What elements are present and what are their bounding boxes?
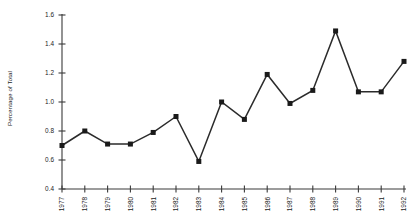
y-axis-tick-label: 0.4 <box>45 185 54 192</box>
data-point-marker <box>333 28 338 33</box>
x-axis-tick-label: 1991 <box>378 197 385 212</box>
x-axis-tick-label: 1980 <box>127 197 134 212</box>
data-point-marker <box>105 142 110 147</box>
line-chart: Percentage of Total 0.40.60.81.01.21.41.… <box>0 0 417 222</box>
x-axis: 1977197819791980198119821983198419851986… <box>58 186 407 212</box>
x-axis-tick-label: 1985 <box>241 197 248 212</box>
x-axis-tick-label: 1990 <box>355 197 362 212</box>
x-axis-tick-label: 1989 <box>332 197 339 212</box>
y-axis-tick-label: 0.6 <box>45 156 54 163</box>
data-series <box>60 28 407 164</box>
data-point-marker <box>196 159 201 164</box>
data-point-marker <box>60 143 65 148</box>
data-point-marker <box>151 130 156 135</box>
y-axis: 0.40.60.81.01.21.41.6 <box>45 11 65 192</box>
data-point-marker <box>128 142 133 147</box>
y-axis-tick-label: 0.8 <box>45 127 54 134</box>
data-point-marker <box>242 117 247 122</box>
x-axis-tick-label: 1987 <box>286 197 293 212</box>
x-axis-tick-label: 1984 <box>218 197 225 212</box>
x-axis-tick-label: 1982 <box>172 197 179 212</box>
data-point-marker <box>310 88 315 93</box>
data-point-marker <box>379 89 384 94</box>
y-axis-tick-label: 1.0 <box>45 98 54 105</box>
x-axis-tick-label: 1983 <box>195 197 202 212</box>
data-point-marker <box>174 114 179 119</box>
data-point-marker <box>82 129 87 134</box>
x-axis-tick-label: 1977 <box>58 197 65 212</box>
data-point-marker <box>288 101 293 106</box>
y-axis-tick-label: 1.4 <box>45 40 54 47</box>
y-axis-title: Percentage of Total <box>2 0 18 196</box>
x-axis-tick-label: 1978 <box>81 197 88 212</box>
series-line <box>62 31 404 162</box>
y-axis-tick-label: 1.6 <box>45 11 54 18</box>
y-axis-title-label: Percentage of Total <box>7 70 14 125</box>
x-axis-tick-label: 1988 <box>309 197 316 212</box>
data-point-marker <box>402 59 407 64</box>
x-axis-tick-label: 1979 <box>104 197 111 212</box>
y-axis-tick-label: 1.2 <box>45 69 54 76</box>
data-point-marker <box>356 89 361 94</box>
x-axis-tick-label: 1981 <box>150 197 157 212</box>
data-point-marker <box>219 100 224 105</box>
chart-plot-area: 0.40.60.81.01.21.41.6 197719781979198019… <box>0 0 417 222</box>
data-point-marker <box>265 72 270 77</box>
x-axis-tick-label: 1986 <box>264 197 271 212</box>
x-axis-tick-label: 1992 <box>400 197 407 212</box>
